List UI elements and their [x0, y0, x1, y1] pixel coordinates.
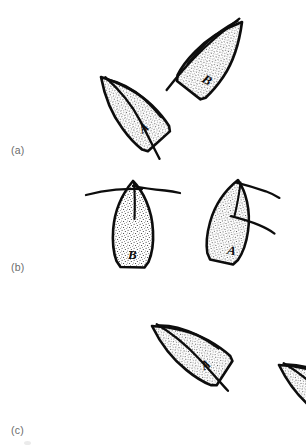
leaf-letter-b-left: B: [127, 247, 137, 262]
panel-label-a: (a): [11, 145, 24, 156]
panel-label-c: (c): [11, 425, 24, 436]
panel-label-b: (b): [11, 262, 24, 273]
scan-artifact-smudge: [24, 441, 31, 445]
figure-canvas: A B B: [0, 0, 306, 448]
leaf-orientation-figure: A B B: [0, 0, 306, 448]
